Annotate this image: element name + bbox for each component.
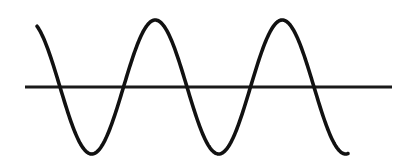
waveform-canvas bbox=[0, 0, 410, 158]
waveform-figure bbox=[0, 0, 410, 158]
figure-background bbox=[0, 0, 410, 158]
